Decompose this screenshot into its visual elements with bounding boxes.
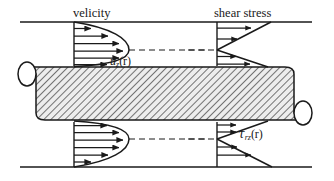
shear-function-label: τrz(r)	[238, 128, 263, 142]
shear-line-bottom-lower	[217, 139, 272, 167]
shear-arrows-top	[217, 28, 251, 64]
shear-line-top-upper	[217, 22, 271, 50]
diagram-canvas	[0, 0, 334, 181]
pipe-body	[18, 62, 312, 125]
shear-profile-top	[188, 22, 271, 67]
velocity-parabola-bottom	[74, 121, 129, 167]
shear-stress-label: shear stress	[214, 7, 271, 20]
velocity-argument: (r)	[119, 54, 131, 68]
shear-argument: (r)	[251, 127, 263, 141]
pipe-right-end-cap	[294, 101, 312, 125]
shear-symbol: τ	[238, 127, 245, 141]
velocity-label: velicity	[73, 7, 111, 20]
velocity-profile-top	[74, 22, 205, 67]
pipe-cylinder-shape	[20, 67, 310, 120]
velocity-profile-bottom	[74, 121, 205, 167]
velocity-arrows-bottom	[74, 126, 123, 163]
velocity-function-label: uz(r)	[110, 55, 131, 69]
pipe-left-end-cap	[18, 62, 36, 86]
pipe-flow-diagram: velicity shear stress uz(r) τrz(r)	[0, 0, 334, 181]
